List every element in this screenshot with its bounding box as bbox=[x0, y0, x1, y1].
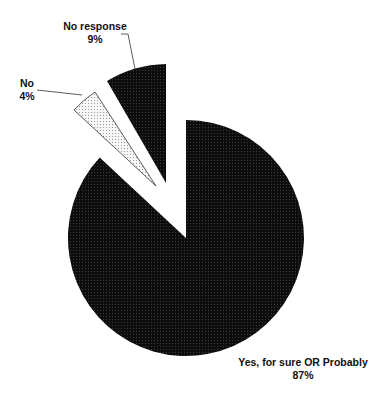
leader-line-no bbox=[37, 90, 82, 95]
pie-chart bbox=[0, 0, 382, 396]
label-no-pct: 4% bbox=[14, 90, 40, 103]
label-no-name: No bbox=[14, 77, 40, 90]
label-no-response-name: No response bbox=[50, 20, 140, 33]
slice-yes bbox=[68, 120, 304, 356]
label-no-response-pct: 9% bbox=[50, 33, 140, 46]
label-yes-pct: 87% bbox=[228, 369, 378, 382]
label-yes-name: Yes, for sure OR Probably bbox=[228, 356, 378, 369]
label-no-response: No response 9% bbox=[50, 20, 140, 46]
label-yes: Yes, for sure OR Probably 87% bbox=[228, 356, 378, 382]
label-no: No 4% bbox=[14, 77, 40, 103]
